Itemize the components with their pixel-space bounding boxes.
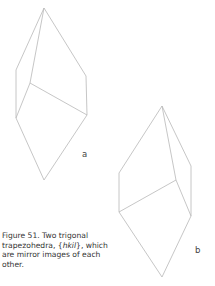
- caption-notation: hkil: [63, 241, 76, 250]
- trapezohedron-b: [119, 106, 191, 277]
- crystal-label-b: b: [195, 246, 200, 255]
- figure-caption: Figure 51. Two trigonal trapezohedra, {h…: [2, 231, 112, 269]
- crystal-label-a: a: [82, 150, 87, 159]
- trapezohedron-a: [16, 8, 87, 180]
